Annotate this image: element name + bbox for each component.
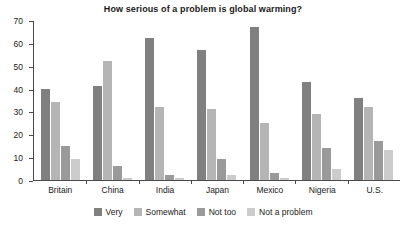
- bars-layer: [34, 21, 400, 180]
- bar[interactable]: [71, 159, 80, 180]
- bar[interactable]: [364, 107, 373, 180]
- y-axis-tick-label: 0: [18, 176, 23, 186]
- bar[interactable]: [270, 173, 279, 180]
- bar[interactable]: [250, 27, 259, 180]
- legend-label: Not a problem: [259, 207, 312, 217]
- bar[interactable]: [332, 169, 341, 180]
- bar[interactable]: [207, 109, 216, 180]
- x-axis-label: Mexico: [244, 185, 296, 195]
- y-axis-tick: 30: [29, 112, 33, 113]
- legend-swatch-icon: [94, 208, 102, 216]
- x-axis-label: China: [86, 185, 138, 195]
- bar-group-bars: [302, 21, 341, 180]
- legend-item[interactable]: Somewhat: [134, 207, 186, 217]
- legend-label: Very: [106, 207, 123, 217]
- y-axis-tick: 70: [29, 21, 33, 22]
- legend-swatch-icon: [134, 208, 142, 216]
- x-axis-line: [33, 180, 400, 181]
- y-axis-tick: 60: [29, 44, 33, 45]
- bar-group: [86, 21, 138, 180]
- bar-group: [348, 21, 400, 180]
- bar[interactable]: [93, 86, 102, 180]
- x-axis-label: Britain: [34, 185, 86, 195]
- legend-swatch-icon: [197, 208, 205, 216]
- bar-chart: How serious of a problem is global warmi…: [0, 0, 406, 235]
- x-axis-label: Japan: [191, 185, 243, 195]
- bar[interactable]: [123, 178, 132, 180]
- bar[interactable]: [155, 107, 164, 180]
- bar-group-bars: [354, 21, 393, 180]
- bar-group-bars: [41, 21, 80, 180]
- bar[interactable]: [260, 123, 269, 180]
- bar[interactable]: [322, 148, 331, 180]
- x-axis-label: Nigeria: [296, 185, 348, 195]
- x-axis-label: India: [139, 185, 191, 195]
- y-axis-tick: 40: [29, 90, 33, 91]
- bar[interactable]: [197, 50, 206, 180]
- bar[interactable]: [103, 61, 112, 180]
- bar[interactable]: [384, 150, 393, 180]
- bar-group: [295, 21, 347, 180]
- bar[interactable]: [217, 159, 226, 180]
- legend-item[interactable]: Not a problem: [247, 207, 312, 217]
- bar-group: [243, 21, 295, 180]
- bar[interactable]: [302, 82, 311, 180]
- y-axis-tick: 20: [29, 135, 33, 136]
- bar[interactable]: [280, 178, 289, 180]
- bar[interactable]: [165, 175, 174, 180]
- bar[interactable]: [175, 178, 184, 180]
- legend-swatch-icon: [247, 208, 255, 216]
- y-axis-tick: 10: [29, 158, 33, 159]
- bar[interactable]: [41, 89, 50, 180]
- y-axis-tick-label: 10: [14, 153, 23, 163]
- x-axis-separator-tick: [191, 180, 192, 184]
- y-axis-tick-label: 40: [14, 85, 23, 95]
- x-axis-separator-tick: [295, 180, 296, 184]
- x-axis-label: U.S.: [349, 185, 401, 195]
- y-axis-tick-label: 60: [14, 39, 23, 49]
- bar[interactable]: [113, 166, 122, 180]
- y-axis-tick: 50: [29, 67, 33, 68]
- bar[interactable]: [145, 38, 154, 180]
- chart-legend: VerySomewhatNot tooNot a problem: [0, 207, 406, 217]
- bar-group-bars: [197, 21, 236, 180]
- x-axis-separator-tick: [348, 180, 349, 184]
- legend-item[interactable]: Very: [94, 207, 123, 217]
- y-axis-tick-label: 50: [14, 62, 23, 72]
- bar-group-bars: [250, 21, 289, 180]
- bar[interactable]: [312, 114, 321, 180]
- x-axis-separator-tick: [86, 180, 87, 184]
- y-axis-tick: 0: [29, 181, 33, 182]
- bar[interactable]: [61, 146, 70, 180]
- bar-group: [34, 21, 86, 180]
- y-axis-tick-label: 20: [14, 130, 23, 140]
- bar-group: [191, 21, 243, 180]
- x-axis-separator-tick: [139, 180, 140, 184]
- x-axis-separator-tick: [243, 180, 244, 184]
- bar-group: [139, 21, 191, 180]
- y-axis-tick-label: 70: [14, 16, 23, 26]
- bar-group-bars: [145, 21, 184, 180]
- x-axis-labels: BritainChinaIndiaJapanMexicoNigeriaU.S.: [34, 185, 401, 195]
- plot-area: 010203040506070: [33, 21, 400, 181]
- legend-item[interactable]: Not too: [197, 207, 236, 217]
- legend-label: Somewhat: [146, 207, 186, 217]
- bar[interactable]: [51, 102, 60, 180]
- bar[interactable]: [227, 175, 236, 180]
- bar-group-bars: [93, 21, 132, 180]
- legend-label: Not too: [209, 207, 236, 217]
- bar[interactable]: [374, 141, 383, 180]
- chart-title: How serious of a problem is global warmi…: [0, 4, 406, 14]
- bar[interactable]: [354, 98, 363, 180]
- y-axis-tick-label: 30: [14, 107, 23, 117]
